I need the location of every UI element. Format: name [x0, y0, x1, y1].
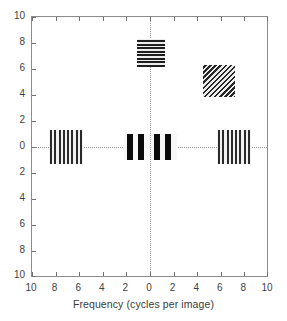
y-tick-label: 2 — [5, 167, 25, 177]
plot-area — [31, 16, 268, 277]
y-tick-label: 10 — [5, 270, 25, 280]
y-tick-label: 6 — [5, 63, 25, 73]
y-tick-label: 4 — [5, 193, 25, 203]
tick-x-bottom — [79, 272, 80, 276]
tick-x-top — [174, 17, 175, 21]
tick-y-left — [32, 173, 36, 174]
x-axis-title: Frequency (cycles per image) — [0, 298, 287, 310]
x-tick-label: 6 — [208, 283, 232, 293]
tick-x-top — [197, 17, 198, 21]
frequency-plot-figure: 10 8 6 4 2 0 2 4 6 8 10 10 8 6 4 2 0 2 4… — [0, 0, 287, 321]
patch-diagonal — [203, 65, 235, 97]
tick-x-bottom — [221, 272, 222, 276]
tick-y-left — [32, 121, 36, 122]
tick-x-bottom — [197, 272, 198, 276]
tick-y-left — [32, 225, 36, 226]
tick-y-left — [32, 147, 36, 148]
tick-y-left — [32, 43, 36, 44]
x-tick-label: 6 — [66, 283, 90, 293]
patch-top-horizontal — [137, 39, 165, 67]
tick-x-bottom — [56, 272, 57, 276]
tick-x-top — [150, 17, 151, 21]
x-tick-label: 4 — [90, 283, 114, 293]
y-tick-label: 8 — [5, 245, 25, 255]
patch-right-low-freq — [151, 134, 177, 160]
tick-x-top — [126, 17, 127, 21]
tick-x-bottom — [150, 272, 151, 276]
tick-x-top — [221, 17, 222, 21]
tick-x-top — [56, 17, 57, 21]
tick-x-bottom — [244, 272, 245, 276]
tick-x-top — [103, 17, 104, 21]
tick-x-top — [79, 17, 80, 21]
x-tick-label: 2 — [113, 283, 137, 293]
tick-x-bottom — [267, 272, 268, 276]
y-tick-label: 4 — [5, 89, 25, 99]
tick-y-left — [32, 251, 36, 252]
x-tick-label: 8 — [231, 283, 255, 293]
patch-left-high-freq — [49, 130, 83, 164]
y-tick-label: 8 — [5, 37, 25, 47]
y-tick-label: 0 — [5, 141, 25, 151]
tick-x-top — [267, 17, 268, 21]
patch-right-high-freq — [217, 130, 251, 164]
tick-y-left — [32, 95, 36, 96]
x-tick-label: 10 — [255, 283, 279, 293]
y-tick-label: 10 — [5, 11, 25, 21]
x-tick-label: 0 — [137, 283, 161, 293]
tick-x-bottom — [103, 272, 104, 276]
y-tick-label: 2 — [5, 115, 25, 125]
x-tick-label: 2 — [161, 283, 185, 293]
tick-y-left — [32, 69, 36, 70]
patch-left-low-freq — [124, 134, 150, 160]
tick-x-bottom — [174, 272, 175, 276]
tick-x-top — [244, 17, 245, 21]
x-tick-label: 10 — [19, 283, 43, 293]
x-tick-label: 4 — [184, 283, 208, 293]
tick-y-left — [32, 17, 36, 18]
tick-x-bottom — [126, 272, 127, 276]
y-tick-label: 6 — [5, 219, 25, 229]
tick-y-left — [32, 276, 36, 277]
x-tick-label: 8 — [43, 283, 67, 293]
tick-y-left — [32, 199, 36, 200]
